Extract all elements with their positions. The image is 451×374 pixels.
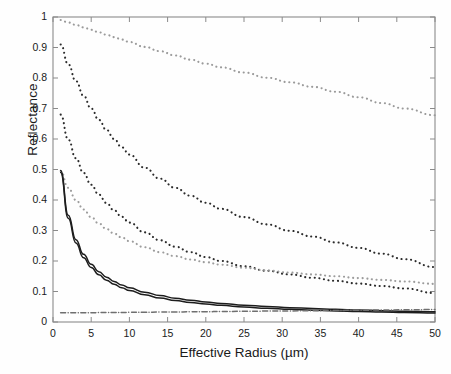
chart-canvas	[0, 0, 451, 374]
series-curve-5-solid-upper	[61, 170, 435, 311]
y-tick-label: 0.1	[11, 285, 47, 297]
y-tick-label: 0.4	[11, 193, 47, 205]
y-tick-label: 1	[11, 10, 47, 22]
data-series-group	[61, 20, 435, 313]
x-axis-label: Effective Radius (µm)	[53, 345, 435, 360]
x-tick-label: 5	[71, 327, 111, 339]
x-tick-label: 45	[377, 327, 417, 339]
x-tick-label: 20	[186, 327, 226, 339]
series-curve-6-solid-lower	[61, 173, 435, 314]
series-curve-4-light-dotted-crossing	[61, 171, 435, 284]
x-tick-label: 50	[415, 327, 451, 339]
x-tick-label: 15	[148, 327, 188, 339]
series-curve-1-light-dotted-upper	[61, 20, 435, 115]
axes-frame	[53, 17, 435, 322]
x-tick-label: 30	[262, 327, 302, 339]
axis-ticks	[53, 17, 435, 322]
x-tick-label: 35	[300, 327, 340, 339]
x-tick-label: 0	[33, 327, 73, 339]
y-tick-label: 0	[11, 315, 47, 327]
y-axis-label: Reflectance	[25, 50, 40, 190]
x-tick-label: 10	[109, 327, 149, 339]
x-tick-label: 40	[339, 327, 379, 339]
y-tick-label: 0.2	[11, 254, 47, 266]
y-tick-label: 0.3	[11, 224, 47, 236]
figure-container: 05101520253035404550 00.10.20.30.40.50.6…	[0, 0, 451, 374]
x-tick-label: 25	[224, 327, 264, 339]
